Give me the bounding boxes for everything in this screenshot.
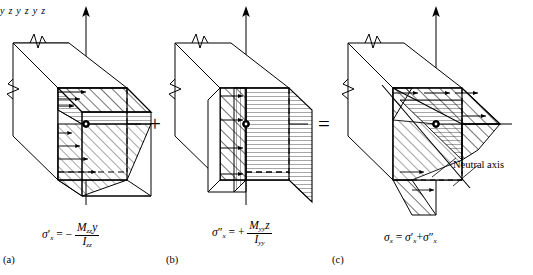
panel-b-axis-strip <box>234 88 246 192</box>
panel-c-combined-stress-block <box>393 88 500 215</box>
formula-b-denominator: Iyy <box>247 234 271 247</box>
formula-a-inertia-sub: zz <box>86 241 92 249</box>
panel-b-right-stress-block <box>246 88 312 202</box>
formula-panel-a: σ′x = − Mzzy Izz <box>42 222 99 249</box>
panel-c-graphic <box>342 6 512 215</box>
stress-superposition-figure: y z y z y z + = Neutral axis (a) (b) (c)… <box>0 0 533 275</box>
formula-b-moment: M <box>249 219 259 231</box>
formula-a-fraction: Mzzy Izz <box>75 222 99 249</box>
formula-c-equals: = <box>396 231 403 243</box>
formula-b-numerator: Myyz <box>247 220 271 234</box>
formula-a-coord: y <box>92 221 97 233</box>
formula-b-fraction: Myyz Iyy <box>247 220 271 247</box>
panel-tag-c: (c) <box>332 255 344 266</box>
panel-a-graphic <box>7 6 151 205</box>
formula-a-moment: M <box>77 221 87 233</box>
formula-b-sign: + <box>238 226 245 238</box>
equals-operator: = <box>318 114 330 135</box>
formula-c-sub: x <box>390 237 393 245</box>
formula-b-equals: = <box>229 226 236 238</box>
formula-panel-c: σx = σ′x+σ″x <box>384 232 437 245</box>
panel-tag-b: (b) <box>166 255 178 266</box>
formula-a-equals: = <box>56 228 63 240</box>
formula-b-coord: z <box>265 219 269 231</box>
panel-b-graphic <box>169 6 312 205</box>
panel-b-centroid-inner <box>245 123 248 126</box>
formula-b-inertia-sub: yy <box>258 239 264 247</box>
panel-a-upper-stress-block <box>58 88 151 124</box>
panel-a-centroid-inner <box>85 123 88 126</box>
formula-c-term2-sub: x <box>433 237 436 245</box>
formula-a-sub: x <box>50 234 53 242</box>
formula-b-sub: x <box>222 232 225 240</box>
neutral-axis-label: Neutral axis <box>453 160 504 171</box>
formula-panel-b: σ″x = + Myyz Iyy <box>212 220 272 247</box>
plus-operator: + <box>149 114 161 135</box>
formula-a-denominator: Izz <box>75 236 99 249</box>
formula-a-sign: − <box>66 228 73 240</box>
panel-c-centroid-inner <box>435 123 438 126</box>
formula-a-numerator: Mzzy <box>75 222 99 236</box>
panel-tag-a: (a) <box>3 255 15 266</box>
